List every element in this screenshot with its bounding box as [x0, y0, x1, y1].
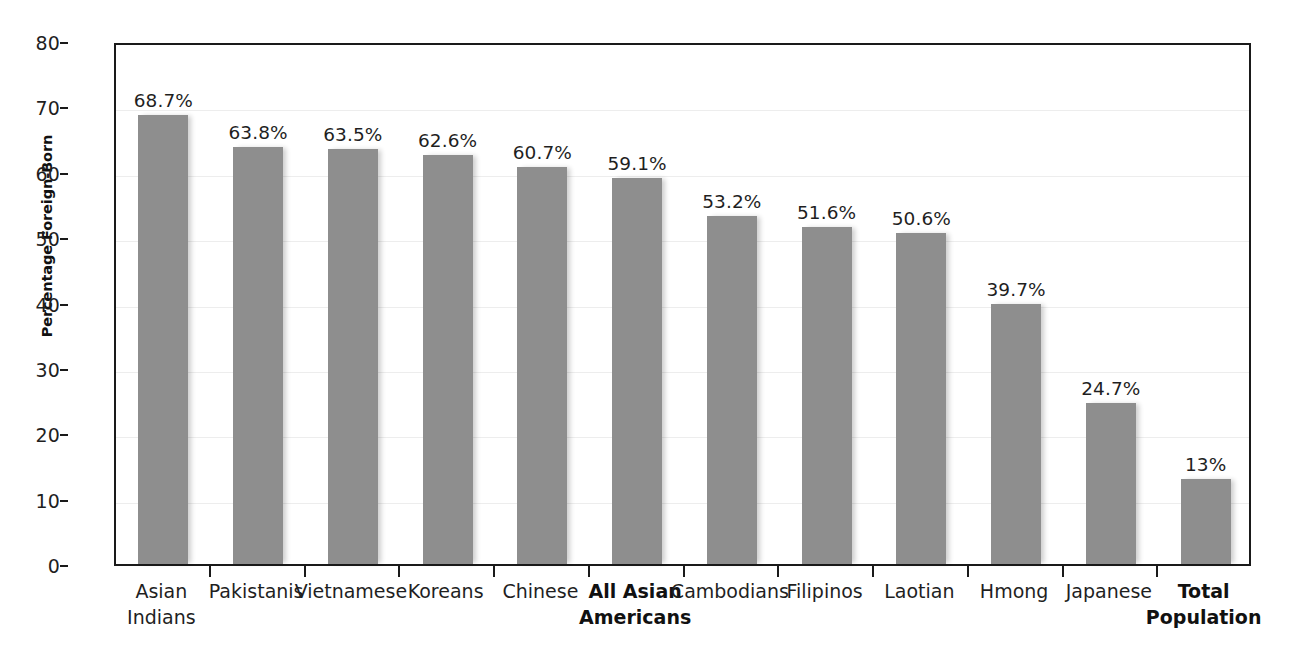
bar[interactable] — [138, 115, 188, 564]
y-tick-label: 80 — [35, 32, 60, 54]
bar-value-label: 53.2% — [702, 191, 761, 212]
bar-group: 39.7% — [969, 45, 1064, 564]
bar-value-label: 13% — [1185, 454, 1226, 475]
x-tick-mark — [1156, 566, 1158, 577]
bar[interactable] — [896, 233, 946, 564]
y-tick-label: 40 — [35, 294, 60, 316]
x-category-label-line1: Hmong — [980, 580, 1049, 602]
bar[interactable] — [328, 149, 378, 564]
x-category-label: Hmong — [980, 578, 1049, 604]
x-category-label-line2: Americans — [579, 604, 691, 630]
bar-value-label: 68.7% — [134, 90, 193, 111]
bar[interactable] — [991, 304, 1041, 564]
y-tick-mark — [60, 565, 68, 567]
x-category-label-line2: Indians — [127, 604, 196, 630]
x-category-label: Laotian — [884, 578, 954, 604]
x-category-label: Chinese — [502, 578, 578, 604]
x-category-label-line1: Pakistanis — [209, 580, 304, 602]
x-tick-mark — [1062, 566, 1064, 577]
bar-group: 68.7% — [116, 45, 211, 564]
x-category-label-line1: Cambodians — [671, 580, 789, 602]
x-tick-mark — [398, 566, 400, 577]
x-category-label-line1: Japanese — [1066, 580, 1152, 602]
x-category-label-line1: Chinese — [502, 580, 578, 602]
y-tick-label: 0 — [48, 555, 60, 577]
x-category-label-line1: Koreans — [408, 580, 484, 602]
bar-value-label: 60.7% — [513, 142, 572, 163]
bar-value-label: 59.1% — [607, 153, 666, 174]
bar[interactable] — [233, 147, 283, 564]
x-category-label: Cambodians — [671, 578, 789, 604]
x-category-label-line1: Vietnamese — [295, 580, 407, 602]
y-tick-mark — [60, 238, 68, 240]
y-tick-label: 50 — [35, 228, 60, 250]
bar-group: 60.7% — [495, 45, 590, 564]
x-category-label-line2: Population — [1146, 604, 1262, 630]
bar-value-label: 24.7% — [1081, 378, 1140, 399]
plot-area: 68.7%63.8%63.5%62.6%60.7%59.1%53.2%51.6%… — [114, 43, 1251, 566]
bar[interactable] — [1181, 479, 1231, 564]
bar[interactable] — [1086, 403, 1136, 564]
x-category-label-line1: All Asian — [589, 580, 682, 602]
bar-group: 62.6% — [400, 45, 495, 564]
x-tick-mark — [588, 566, 590, 577]
bar-group: 59.1% — [590, 45, 685, 564]
y-tick-mark — [60, 304, 68, 306]
bar-group: 63.8% — [211, 45, 306, 564]
bar[interactable] — [707, 216, 757, 564]
bar[interactable] — [612, 178, 662, 564]
x-category-label: Koreans — [408, 578, 484, 604]
bar-group: 51.6% — [779, 45, 874, 564]
bar[interactable] — [802, 227, 852, 564]
x-category-label-line1: Filipinos — [786, 580, 862, 602]
y-tick-label: 60 — [35, 163, 60, 185]
bar-value-label: 51.6% — [797, 202, 856, 223]
x-tick-mark — [304, 566, 306, 577]
bar-value-label: 63.8% — [228, 122, 287, 143]
x-tick-mark — [967, 566, 969, 577]
x-tick-mark — [872, 566, 874, 577]
x-category-label: Filipinos — [786, 578, 862, 604]
x-category-label-line1: Total — [1178, 580, 1230, 602]
bar-chart: Percentage Foreign-Born 0102030405060708… — [0, 0, 1305, 656]
bar-value-label: 39.7% — [986, 279, 1045, 300]
y-tick-mark — [60, 173, 68, 175]
bar-group: 53.2% — [685, 45, 780, 564]
y-tick-mark — [60, 107, 68, 109]
x-tick-mark — [493, 566, 495, 577]
y-tick-label: 20 — [35, 424, 60, 446]
x-axis-labels: AsianIndiansPakistanisVietnameseKoreansC… — [114, 578, 1251, 648]
x-category-label: Japanese — [1066, 578, 1152, 604]
bar-group: 13% — [1158, 45, 1253, 564]
bar-value-label: 62.6% — [418, 130, 477, 151]
bar-value-label: 50.6% — [892, 208, 951, 229]
x-category-label: Vietnamese — [295, 578, 407, 604]
y-tick-mark — [60, 500, 68, 502]
y-tick-mark — [60, 369, 68, 371]
bar[interactable] — [423, 155, 473, 564]
x-category-label: Pakistanis — [209, 578, 304, 604]
x-axis-ticks — [114, 566, 1251, 578]
x-category-label-line1: Laotian — [884, 580, 954, 602]
y-tick-label: 70 — [35, 97, 60, 119]
bar-value-label: 63.5% — [323, 124, 382, 145]
x-tick-mark — [777, 566, 779, 577]
y-tick-mark — [60, 434, 68, 436]
x-category-label: TotalPopulation — [1146, 578, 1262, 630]
x-category-label: AsianIndians — [127, 578, 196, 630]
x-tick-mark — [209, 566, 211, 577]
bar[interactable] — [517, 167, 567, 564]
y-tick-label: 10 — [35, 490, 60, 512]
bar-group: 24.7% — [1064, 45, 1159, 564]
x-tick-mark — [683, 566, 685, 577]
x-category-label-line1: Asian — [135, 580, 187, 602]
bar-group: 50.6% — [874, 45, 969, 564]
y-tick-label: 30 — [35, 359, 60, 381]
bar-group: 63.5% — [306, 45, 401, 564]
y-axis: 01020304050607080 — [0, 0, 114, 656]
y-tick-mark — [60, 42, 68, 44]
